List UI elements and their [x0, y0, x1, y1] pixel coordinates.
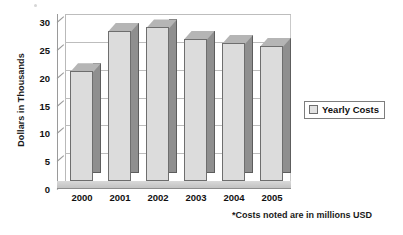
bar-side-face — [93, 63, 101, 173]
bar-front-face — [222, 43, 245, 181]
bar-front-face — [260, 46, 283, 181]
y-tick-label: 0 — [28, 185, 50, 195]
plot-area — [57, 14, 291, 189]
bar-front-face — [70, 71, 93, 181]
bar-side-face — [245, 35, 253, 173]
scan-artifact-speck — [34, 4, 37, 7]
y-axis-tick-labels: 051015202530 — [24, 14, 50, 189]
x-tick-label: 2005 — [255, 192, 289, 203]
x-tick-label: 2004 — [217, 192, 251, 203]
y-tick-label: 25 — [28, 46, 50, 56]
y-tick-label: 10 — [28, 129, 50, 139]
x-axis-tick-labels: 200020012002200320042005 — [57, 192, 297, 206]
legend-label: Yearly Costs — [322, 105, 379, 115]
x-tick-label: 2002 — [141, 192, 175, 203]
legend-swatch-icon — [309, 105, 318, 114]
bar-chart-figure: Dollars in Thousands 051015202530 200020… — [0, 0, 403, 235]
y-tick-label: 20 — [28, 74, 50, 84]
y-tick-label: 30 — [28, 18, 50, 28]
y-tick-label: 15 — [28, 102, 50, 112]
x-tick-label: 2000 — [65, 192, 99, 203]
gridline — [65, 14, 291, 15]
bar-side-face — [169, 19, 177, 173]
x-tick-label: 2003 — [179, 192, 213, 203]
bar-side-face — [131, 23, 139, 173]
y-axis-line — [57, 14, 58, 189]
bar-front-face — [184, 39, 207, 182]
bar-side-face — [207, 31, 215, 174]
x-tick-label: 2001 — [103, 192, 137, 203]
footnote-annotation: *Costs noted are in millions USD — [232, 210, 372, 220]
legend[interactable]: Yearly Costs — [304, 101, 385, 119]
y-tick-label: 5 — [28, 157, 50, 167]
gridline — [65, 42, 291, 43]
x-axis-line — [57, 188, 291, 189]
bar-side-face — [283, 38, 291, 173]
bar-front-face — [146, 27, 169, 181]
bar-front-face — [108, 31, 131, 181]
